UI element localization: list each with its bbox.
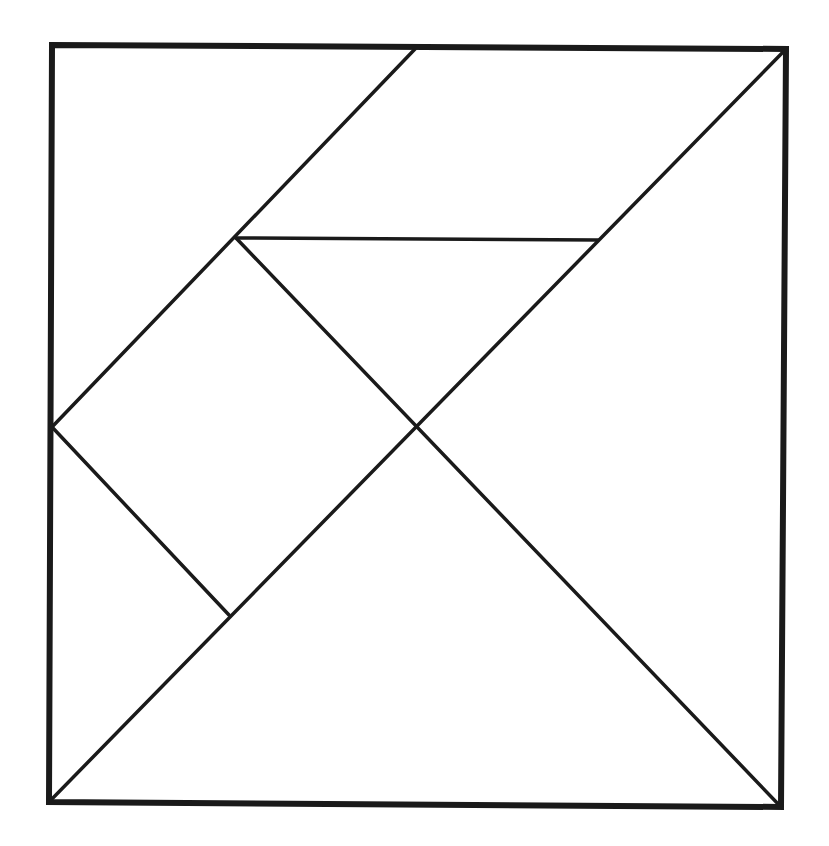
parallelogram-bottom-edge [236, 238, 598, 240]
tangram-diagram [0, 0, 829, 846]
